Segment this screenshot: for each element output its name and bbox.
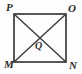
geometry-figure: P O M N Q	[0, 0, 82, 74]
vertex-label-top-right: O	[68, 3, 76, 14]
center-point-label: Q	[35, 41, 42, 51]
vertex-label-top-left: P	[6, 2, 13, 13]
vertex-label-bottom-right: N	[69, 60, 77, 71]
vertex-label-bottom-left: M	[4, 59, 14, 70]
